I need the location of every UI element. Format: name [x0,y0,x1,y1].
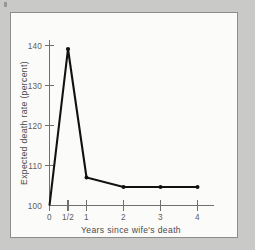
line-chart: 140 130 120 110 100 0 1/2 1 2 3 4 Yea [0,0,255,250]
x-tick-label-2: 2 [121,213,126,222]
y-tick-label-100: 100 [28,202,43,211]
data-point-2 [122,185,126,189]
figure-root: 140 130 120 110 100 0 1/2 1 2 3 4 Yea [0,0,255,250]
y-tick-label-140: 140 [28,42,43,51]
x-tick-label-4: 4 [195,213,200,222]
y-axis-title: Expected death rate (percent) [19,61,29,185]
x-tick-label-half: 1/2 [62,213,74,222]
x-tick-label-0: 0 [47,213,52,222]
data-point-3 [159,185,163,189]
x-axis-title: Years since wife's death [81,225,181,235]
x-tick-label-3: 3 [158,213,163,222]
x-axis-ticks: 0 1/2 1 2 3 4 [47,200,200,222]
y-tick-label-130: 130 [28,82,43,91]
data-point-4 [196,185,200,189]
data-point-0 [66,47,70,51]
x-tick-label-1: 1 [84,213,89,222]
y-axis-ticks: 140 130 120 110 100 [28,42,54,211]
series-line-expected-death-rate [50,49,198,206]
data-point-1 [85,176,89,180]
y-tick-label-110: 110 [28,162,42,171]
y-tick-label-120: 120 [28,122,43,131]
